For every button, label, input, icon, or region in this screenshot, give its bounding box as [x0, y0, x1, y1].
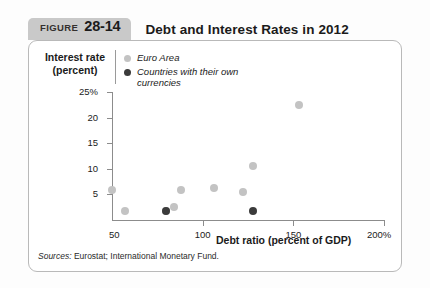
figure-tag-number: 28-14	[84, 18, 120, 34]
y-axis-tick-label: 10	[87, 163, 98, 174]
y-axis-title: Interest rate(percent)	[36, 51, 114, 77]
data-point	[121, 207, 129, 215]
y-axis-tick: 20	[107, 118, 112, 119]
x-axis-tick-label: 200%	[367, 229, 391, 240]
y-axis-tick: 15	[107, 143, 112, 144]
data-point	[162, 207, 170, 215]
data-point	[210, 184, 218, 192]
y-axis-title-line1: Interest rate	[45, 51, 105, 63]
y-axis-tick-label: 5	[93, 188, 98, 199]
y-axis-tick: 25%	[107, 92, 112, 93]
page-title: Debt and Interest Rates in 2012	[145, 22, 348, 37]
x-axis-tick	[384, 220, 385, 226]
chart-legend: Euro Area Countries with their own curre…	[124, 52, 274, 91]
y-axis-line	[112, 92, 113, 220]
sources-label: Sources:	[38, 251, 72, 261]
x-axis-title: Debt ratio (percent of GDP)	[216, 234, 351, 246]
data-point	[177, 186, 185, 194]
y-axis-tick: 10	[107, 169, 112, 170]
data-point	[295, 101, 303, 109]
legend-item-euro-area: Euro Area	[124, 52, 274, 64]
figure-header: FIGURE 28-14 Debt and Interest Rates in …	[28, 18, 402, 40]
y-axis-title-line2: (percent)	[53, 64, 98, 76]
x-axis-tick-label: 100	[195, 229, 211, 240]
scatter-plot: 510152025% 50100150200%	[112, 92, 384, 222]
data-point	[239, 188, 247, 196]
legend-divider	[115, 50, 116, 84]
sources-note: Sources: Eurostat; International Monetar…	[38, 251, 219, 261]
legend-item-label: Countries with their own currencies	[137, 66, 274, 89]
circle-marker-icon	[124, 55, 131, 62]
x-axis-tick	[203, 220, 204, 226]
data-point	[249, 162, 257, 170]
data-point	[249, 207, 257, 215]
x-axis-line	[112, 220, 384, 221]
legend-item-label: Euro Area	[137, 52, 179, 64]
circle-marker-icon	[124, 69, 131, 76]
figure-tag-word: FIGURE	[40, 22, 78, 33]
legend-item-own-currencies: Countries with their own currencies	[124, 66, 274, 89]
x-axis-tick	[293, 220, 294, 226]
x-axis-tick-label: 50	[109, 229, 120, 240]
figure-container: FIGURE 28-14 Debt and Interest Rates in …	[0, 0, 430, 288]
sources-text: Eurostat; International Monetary Fund.	[72, 251, 219, 261]
y-axis-tick: 5	[107, 194, 112, 195]
y-axis-tick-label: 25%	[79, 86, 98, 97]
data-point	[170, 203, 178, 211]
y-axis-tick-label: 15	[87, 137, 98, 148]
y-axis-tick-label: 20	[87, 112, 98, 123]
data-point	[108, 186, 116, 194]
figure-tag: FIGURE 28-14	[28, 18, 131, 40]
